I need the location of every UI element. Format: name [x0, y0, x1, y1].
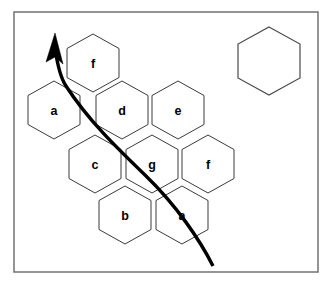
isolated-hexagon [238, 27, 300, 95]
hexagon-figure-canvas: fadecgfba [0, 0, 335, 284]
hexagon-label-c-4: c [92, 158, 99, 172]
isolated-hexagon-shape[interactable] [238, 27, 300, 95]
hexagon-label-b-7: b [121, 209, 129, 223]
hexagon-label-e-3: e [175, 104, 182, 118]
hexagon-label-a-1: a [51, 104, 59, 118]
hexagon-label-g-5: g [148, 158, 156, 172]
hexagon-figure: fadecgfba [0, 0, 335, 284]
hexagon-label-d-2: d [118, 104, 126, 118]
arrow-head-icon [46, 33, 63, 64]
